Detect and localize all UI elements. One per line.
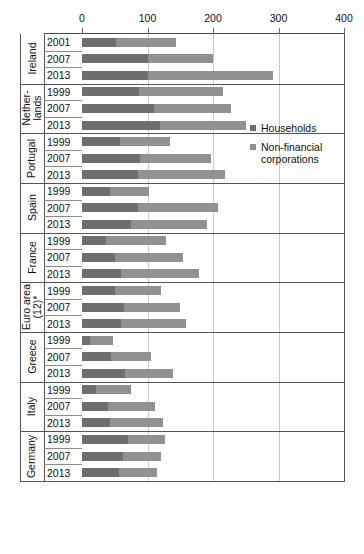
bar-stacked <box>82 468 157 477</box>
bar-stacked <box>82 236 166 245</box>
bar-segment-non-financial-corporations <box>128 435 165 444</box>
bar-segment-households <box>82 170 138 179</box>
x-axis-tick-label: 200 <box>204 12 222 24</box>
bar-segment-households <box>82 154 140 163</box>
bar-stacked <box>82 187 149 196</box>
bar-stacked <box>82 369 173 378</box>
bar-segment-non-financial-corporations <box>148 54 214 63</box>
row-separator <box>44 348 82 349</box>
bar-segment-non-financial-corporations <box>90 336 113 345</box>
legend-swatch-non-financial-corporations <box>250 144 256 150</box>
bar-segment-non-financial-corporations <box>110 187 149 196</box>
country-label-text: Greece <box>26 339 37 373</box>
country-label: Nether-lands <box>20 84 44 134</box>
year-label: 1999 <box>47 286 70 297</box>
bar-segment-households <box>82 269 121 278</box>
year-label: 2013 <box>47 269 70 280</box>
bar-segment-households <box>82 236 106 245</box>
bar-segment-non-financial-corporations <box>110 418 163 427</box>
row-separator <box>44 51 82 52</box>
bar-segment-non-financial-corporations <box>125 369 173 378</box>
bar-segment-households <box>82 418 110 427</box>
bar-segment-households <box>82 369 125 378</box>
bar-segment-non-financial-corporations <box>119 468 156 477</box>
bar-segment-non-financial-corporations <box>138 203 219 212</box>
year-label: 1999 <box>47 335 70 346</box>
row-separator <box>44 315 82 316</box>
chart-legend: Households Non-financial corporations <box>250 122 362 172</box>
legend-swatch-households <box>250 125 256 131</box>
bar-segment-households <box>82 121 160 130</box>
x-axis-tick-label: 400 <box>335 12 353 24</box>
year-label: 1999 <box>47 186 70 197</box>
country-label-text: Euro area(12)* <box>21 284 43 330</box>
gridline <box>279 34 280 481</box>
bar-stacked <box>82 137 170 146</box>
group-separator <box>20 84 344 85</box>
country-label-text: Nether-lands <box>21 91 43 126</box>
row-separator <box>44 365 82 366</box>
gridline <box>213 34 214 481</box>
row-separator <box>44 200 82 201</box>
group-separator <box>20 332 344 333</box>
x-axis-line <box>44 33 344 34</box>
bar-stacked <box>82 319 186 328</box>
year-label: 2007 <box>47 451 70 462</box>
country-label: Germany <box>20 431 44 481</box>
row-separator <box>44 249 82 250</box>
year-label: 2013 <box>47 170 70 181</box>
bar-stacked <box>82 38 176 47</box>
row-separator <box>44 117 82 118</box>
year-label: 2013 <box>47 120 70 131</box>
bar-segment-households <box>82 319 121 328</box>
row-separator <box>44 299 82 300</box>
group-separator <box>20 233 344 234</box>
bar-segment-households <box>82 402 108 411</box>
bar-stacked <box>82 435 165 444</box>
bar-segment-households <box>82 137 120 146</box>
country-label: Portugal <box>20 133 44 183</box>
year-label: 2007 <box>47 352 70 363</box>
bar-stacked <box>82 336 113 345</box>
bar-stacked <box>82 170 225 179</box>
year-label: 2007 <box>47 203 70 214</box>
bar-stacked <box>82 104 231 113</box>
bar-segment-households <box>82 38 116 47</box>
group-separator <box>20 382 344 383</box>
country-label: Ireland <box>20 34 44 84</box>
bar-segment-non-financial-corporations <box>108 402 155 411</box>
country-label-text: Italy <box>26 397 37 416</box>
bar-segment-non-financial-corporations <box>154 104 231 113</box>
bar-segment-non-financial-corporations <box>139 87 223 96</box>
bar-segment-non-financial-corporations <box>106 236 166 245</box>
bar-segment-households <box>82 336 90 345</box>
bar-segment-non-financial-corporations <box>123 452 162 461</box>
bar-stacked <box>82 203 218 212</box>
year-label: 2013 <box>47 468 70 479</box>
row-separator <box>44 448 82 449</box>
group-separator <box>20 282 344 283</box>
bar-segment-households <box>82 452 123 461</box>
year-label: 2001 <box>47 37 70 48</box>
bar-stacked <box>82 402 155 411</box>
bar-segment-non-financial-corporations <box>121 269 199 278</box>
row-separator <box>44 216 82 217</box>
country-label: Spain <box>20 183 44 233</box>
bar-segment-non-financial-corporations <box>121 319 186 328</box>
year-label: 2013 <box>47 219 70 230</box>
bar-segment-non-financial-corporations <box>138 170 225 179</box>
bar-segment-non-financial-corporations <box>96 385 131 394</box>
country-label-text: Germany <box>26 434 37 477</box>
bar-segment-households <box>82 220 131 229</box>
bar-segment-non-financial-corporations <box>120 137 170 146</box>
bar-segment-households <box>82 54 148 63</box>
bar-segment-households <box>82 303 124 312</box>
bar-segment-households <box>82 435 128 444</box>
group-separator <box>20 431 344 432</box>
bar-segment-non-financial-corporations <box>124 303 180 312</box>
country-label: France <box>20 233 44 283</box>
year-label: 2013 <box>47 418 70 429</box>
year-label: 2013 <box>47 70 70 81</box>
year-label: 1999 <box>47 434 70 445</box>
country-label: Greece <box>20 332 44 382</box>
